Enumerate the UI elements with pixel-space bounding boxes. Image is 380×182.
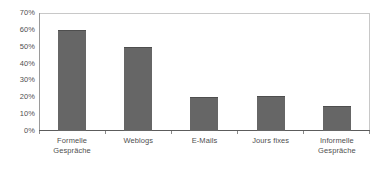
x-axis-tick [105,131,106,134]
y-axis: 70% 60% 50% 40% 30% 20% 10% 0% [0,0,38,182]
y-tick-label: 10% [1,110,35,118]
bars-layer [39,13,370,131]
x-axis-label-line: E-Mails [171,136,237,146]
bar-chart: 70% 60% 50% 40% 30% 20% 10% 0% [0,0,380,182]
bar-slot [304,13,370,131]
bar-jours-fixes[interactable] [257,96,285,131]
bar-formelle-gespraeche[interactable] [58,30,86,131]
y-tick-label: 0% [1,127,35,135]
y-tick-label: 20% [1,93,35,101]
bar-e-mails[interactable] [190,97,218,131]
bar-slot [238,13,304,131]
x-axis-label-line: Gespräche [39,146,105,156]
x-axis-label-line: Jours fixes [238,136,304,146]
x-axis-tick [237,131,238,134]
bar-slot [39,13,105,131]
x-axis-label-jours-fixes: Jours fixes [238,136,304,146]
x-axis-tick [171,131,172,134]
bar-slot [105,13,171,131]
bar-informelle-gespraeche[interactable] [323,106,351,131]
y-tick-label: 60% [1,26,35,34]
x-axis-label-line: Formelle [39,136,105,146]
bar-slot [171,13,237,131]
x-axis-label-informelle-gespraeche: Informelle Gespräche [304,136,370,156]
x-axis-tick [39,131,40,134]
x-axis-label-formelle-gespraeche: Formelle Gespräche [39,136,105,156]
x-axis-label-e-mails: E-Mails [171,136,237,146]
x-axis-label-line: Informelle [304,136,370,146]
y-tick-label: 70% [1,9,35,17]
x-axis-tick [303,131,304,134]
x-axis-label-weblogs: Weblogs [105,136,171,146]
y-tick-label: 30% [1,76,35,84]
x-axis-labels: Formelle Gespräche Weblogs E-Mails Jours… [39,136,370,180]
x-axis-label-line: Gespräche [304,146,370,156]
y-tick-label: 40% [1,60,35,68]
bar-weblogs[interactable] [124,47,152,131]
x-axis-label-line: Weblogs [105,136,171,146]
y-tick-label: 50% [1,43,35,51]
x-axis-tick [369,131,370,134]
